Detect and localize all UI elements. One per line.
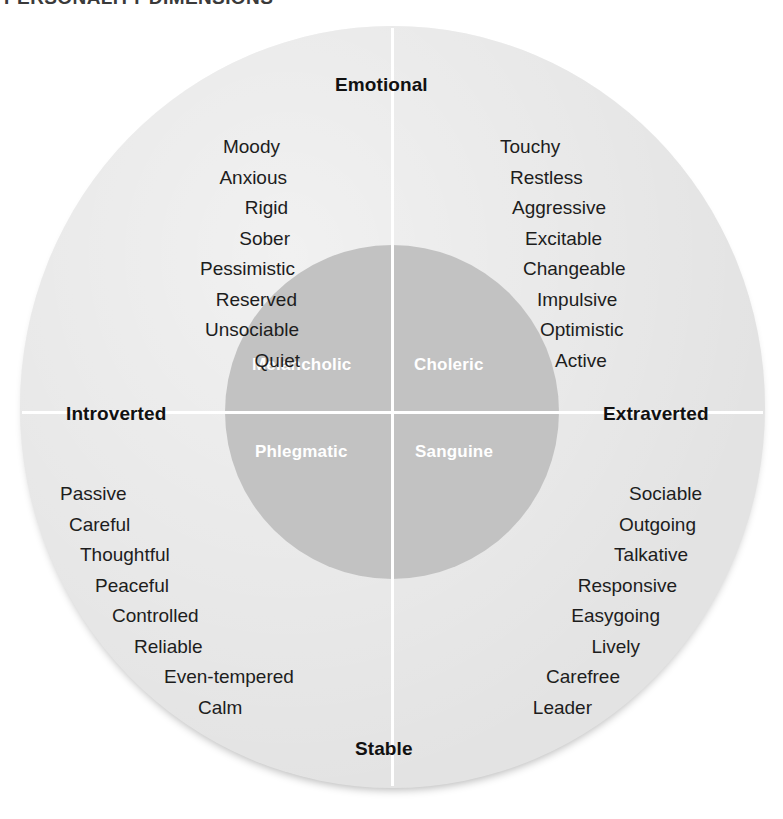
axis-pole-label-emotional: Emotional bbox=[335, 74, 428, 96]
trait-word: Peaceful bbox=[60, 571, 328, 602]
trait-word: Impulsive bbox=[485, 285, 750, 316]
trait-word: Leader bbox=[452, 693, 702, 724]
trait-word: Responsive bbox=[452, 571, 702, 602]
trait-word: Outgoing bbox=[452, 510, 702, 541]
trait-word: Moody bbox=[40, 132, 300, 163]
axis-pole-label-stable: Stable bbox=[355, 738, 413, 760]
trait-word: Quiet bbox=[40, 346, 300, 377]
personality-dimensions-diagram: Emotional Stable Introverted Extraverted… bbox=[0, 0, 783, 819]
axis-pole-label-introverted: Introverted bbox=[66, 403, 166, 425]
trait-word: Reliable bbox=[60, 632, 328, 663]
trait-word: Lively bbox=[452, 632, 702, 663]
trait-word: Excitable bbox=[485, 224, 750, 255]
trait-list-choleric: TouchyRestlessAggressiveExcitableChangea… bbox=[485, 132, 750, 376]
axis-pole-label-extraverted: Extraverted bbox=[603, 403, 709, 425]
trait-word: Passive bbox=[60, 479, 328, 510]
trait-word: Changeable bbox=[485, 254, 750, 285]
trait-list-phlegmatic: PassiveCarefulThoughtfulPeacefulControll… bbox=[60, 479, 328, 723]
trait-word: Optimistic bbox=[485, 315, 750, 346]
trait-word: Sober bbox=[40, 224, 300, 255]
trait-word: Rigid bbox=[40, 193, 300, 224]
trait-word: Talkative bbox=[452, 540, 702, 571]
trait-word: Reserved bbox=[40, 285, 300, 316]
trait-word: Sociable bbox=[452, 479, 702, 510]
trait-word: Restless bbox=[485, 163, 750, 194]
trait-word: Thoughtful bbox=[60, 540, 328, 571]
trait-word: Aggressive bbox=[485, 193, 750, 224]
trait-word: Careful bbox=[60, 510, 328, 541]
vertical-axis-line bbox=[391, 28, 394, 786]
trait-word: Anxious bbox=[40, 163, 300, 194]
trait-list-melancholic: MoodyAnxiousRigidSoberPessimisticReserve… bbox=[40, 132, 300, 376]
trait-word: Active bbox=[485, 346, 750, 377]
trait-word: Easygoing bbox=[452, 601, 702, 632]
trait-word: Carefree bbox=[452, 662, 702, 693]
trait-word: Unsociable bbox=[40, 315, 300, 346]
temperament-label-choleric: Choleric bbox=[414, 355, 484, 375]
trait-word: Touchy bbox=[485, 132, 750, 163]
trait-list-sanguine: SociableOutgoingTalkativeResponsiveEasyg… bbox=[452, 479, 702, 723]
trait-word: Pessimistic bbox=[40, 254, 300, 285]
trait-word: Calm bbox=[60, 693, 328, 724]
temperament-label-phlegmatic: Phlegmatic bbox=[255, 442, 348, 462]
temperament-label-sanguine: Sanguine bbox=[415, 442, 493, 462]
trait-word: Even-tempered bbox=[60, 662, 328, 693]
trait-word: Controlled bbox=[60, 601, 328, 632]
